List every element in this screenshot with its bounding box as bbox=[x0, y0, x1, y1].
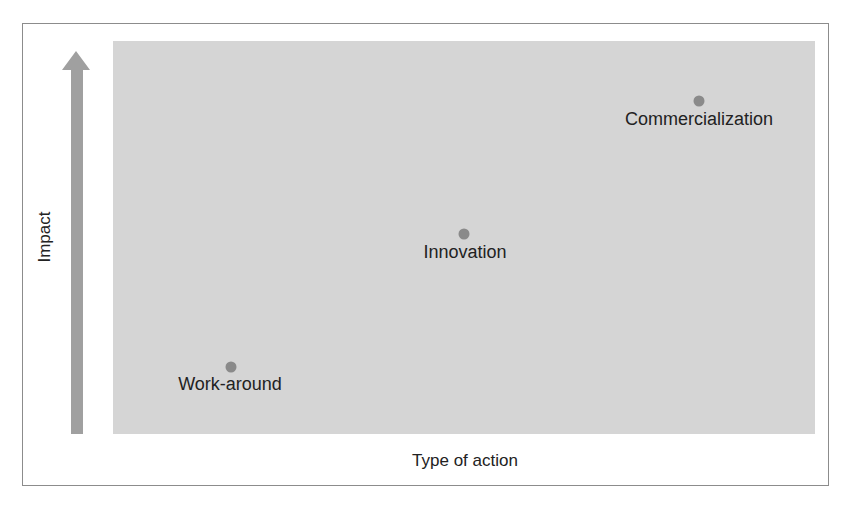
point-innovation bbox=[459, 229, 470, 240]
point-commercialization bbox=[694, 96, 705, 107]
label-innovation: Innovation bbox=[423, 242, 506, 263]
label-work-around: Work-around bbox=[178, 374, 282, 395]
label-commercialization: Commercialization bbox=[625, 109, 773, 130]
x-axis-label: Type of action bbox=[412, 451, 518, 471]
point-work-around bbox=[226, 362, 237, 373]
y-axis-label: Impact bbox=[35, 211, 55, 262]
